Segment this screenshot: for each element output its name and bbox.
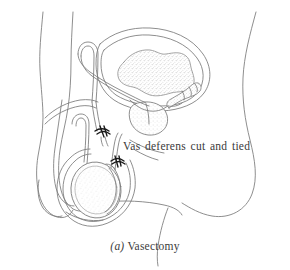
spermatic-cord-sweep-b [45, 106, 96, 124]
pelvic-floor [130, 140, 164, 153]
bladder-lumen-stipple [118, 50, 194, 96]
body-outline-anterior [37, 12, 73, 218]
caption-index: (a) [110, 240, 124, 252]
spermatic-cord-sweep-a [45, 100, 98, 118]
buttock-outline [182, 12, 256, 217]
vas-deferens-loop-b [81, 46, 94, 102]
vas-stump-upper-b [105, 137, 108, 146]
perineum-line [135, 150, 158, 160]
figure-caption: (a)Vasectomy [0, 240, 290, 252]
vas-stump-upper [101, 137, 103, 146]
thigh-crease [157, 208, 168, 266]
vas-deferens-tie-lower [111, 156, 125, 167]
figure-container: Vas deferens cut and tied (a)Vasectomy [0, 0, 290, 270]
caption-text: Vasectomy [127, 240, 179, 252]
anatomy-illustration [0, 0, 290, 270]
vas-deferens-tie-upper [95, 126, 110, 137]
